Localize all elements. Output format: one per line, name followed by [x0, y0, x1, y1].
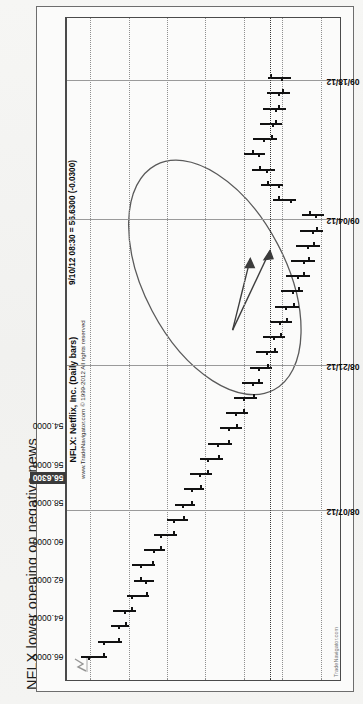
- chart-window[interactable]: NFLX: Netflix, Inc. (Daily bars) www.Tra…: [36, 6, 354, 692]
- bar-close-tick: [252, 150, 254, 153]
- price-bar: [111, 622, 129, 629]
- bar-range: [127, 595, 149, 597]
- current-price-line: [270, 18, 271, 680]
- bar-range: [154, 534, 177, 536]
- bar-open-tick: [312, 231, 314, 234]
- bar-open-tick: [160, 535, 162, 538]
- price-axis-tick: [59, 618, 63, 619]
- bar-open-tick: [297, 276, 299, 279]
- bar-close-tick: [308, 257, 310, 260]
- bar-close-tick: [228, 440, 230, 443]
- bar-close-tick: [152, 561, 154, 564]
- bar-open-tick: [292, 291, 294, 294]
- bar-open-tick: [228, 428, 230, 431]
- bar-range: [98, 641, 122, 643]
- date-gridline: [67, 80, 340, 81]
- price-bar: [134, 577, 153, 584]
- bar-open-tick: [131, 596, 133, 599]
- price-gridline: [205, 18, 206, 680]
- price-bar: [200, 455, 223, 462]
- bar-close-tick: [278, 105, 280, 108]
- bar-range: [244, 153, 265, 155]
- bar-close-tick: [274, 348, 276, 351]
- annotation-layer: [67, 18, 340, 680]
- bar-close-tick: [207, 470, 209, 473]
- bar-open-tick: [263, 139, 265, 142]
- price-bar: [167, 516, 188, 523]
- price-bar: [175, 501, 195, 508]
- bar-close-tick: [293, 303, 295, 306]
- date-axis-label: 08/07/12: [323, 507, 363, 517]
- bar-close-tick: [218, 455, 220, 458]
- bar-open-tick: [173, 520, 175, 523]
- bar-open-tick: [285, 307, 287, 310]
- price-bar: [300, 227, 323, 234]
- bar-open-tick: [191, 489, 193, 492]
- bar-close-tick: [146, 592, 148, 595]
- bar-close-tick: [125, 622, 127, 625]
- title-area: NFLX lower opening on negative news: [0, 0, 34, 704]
- bar-range: [208, 443, 232, 445]
- date-gridline: [67, 510, 340, 511]
- bar-open-tick: [281, 78, 283, 81]
- bar-close-tick: [243, 409, 245, 412]
- price-bar: [302, 211, 324, 218]
- bar-open-tick: [258, 368, 260, 371]
- price-bar: [268, 74, 291, 81]
- price-bar: [263, 105, 286, 112]
- price-bar: [144, 546, 165, 553]
- price-axis-tick: [59, 542, 63, 543]
- bar-close-tick: [253, 394, 255, 397]
- bar-range: [261, 184, 283, 186]
- price-bar: [234, 394, 257, 401]
- bar-range: [132, 564, 155, 566]
- bar-range: [190, 473, 212, 475]
- price-axis-tick: [59, 657, 63, 658]
- bar-open-tick: [140, 565, 142, 568]
- price-gridline: [129, 18, 130, 680]
- bar-close-tick: [200, 485, 202, 488]
- price-bar: [273, 196, 296, 203]
- bar-close-tick: [118, 638, 120, 641]
- date-gridline: [67, 365, 340, 366]
- price-bar: [132, 561, 155, 568]
- price-gridline: [282, 18, 283, 680]
- bar-close-tick: [275, 120, 277, 123]
- price-bar: [208, 440, 232, 447]
- bar-close-tick: [173, 531, 175, 534]
- bar-close-tick: [258, 379, 260, 382]
- plot-area[interactable]: [65, 17, 341, 681]
- bar-close-tick: [298, 287, 300, 290]
- bar-close-tick: [303, 272, 305, 275]
- bar-range: [250, 367, 272, 369]
- bar-open-tick: [307, 246, 309, 249]
- bar-open-tick: [303, 261, 305, 264]
- price-bar: [184, 485, 204, 492]
- bar-open-tick: [88, 657, 90, 660]
- bar-range: [184, 488, 204, 490]
- price-bar: [250, 364, 272, 371]
- bar-close-tick: [316, 227, 318, 230]
- bar-open-tick: [243, 398, 245, 401]
- bar-open-tick: [235, 413, 237, 416]
- price-bar: [242, 379, 263, 386]
- bar-open-tick: [145, 581, 147, 584]
- price-axis-tick: [59, 580, 63, 581]
- bar-close-tick: [140, 577, 142, 580]
- bar-close-tick: [259, 166, 261, 169]
- date-gridline: [67, 219, 340, 220]
- price-bar: [127, 592, 149, 599]
- price-bar: [296, 242, 320, 249]
- arrow-to-gap-annotation: [233, 251, 273, 331]
- bar-open-tick: [153, 550, 155, 553]
- bar-range: [200, 458, 223, 460]
- price-gridline: [90, 18, 91, 680]
- bar-range: [268, 77, 291, 79]
- price-bar: [281, 287, 303, 294]
- bar-close-tick: [103, 653, 105, 656]
- bar-range: [220, 427, 242, 429]
- bar-open-tick: [217, 444, 219, 447]
- bar-close-tick: [267, 364, 269, 367]
- bar-open-tick: [199, 474, 201, 477]
- bar-open-tick: [272, 124, 274, 127]
